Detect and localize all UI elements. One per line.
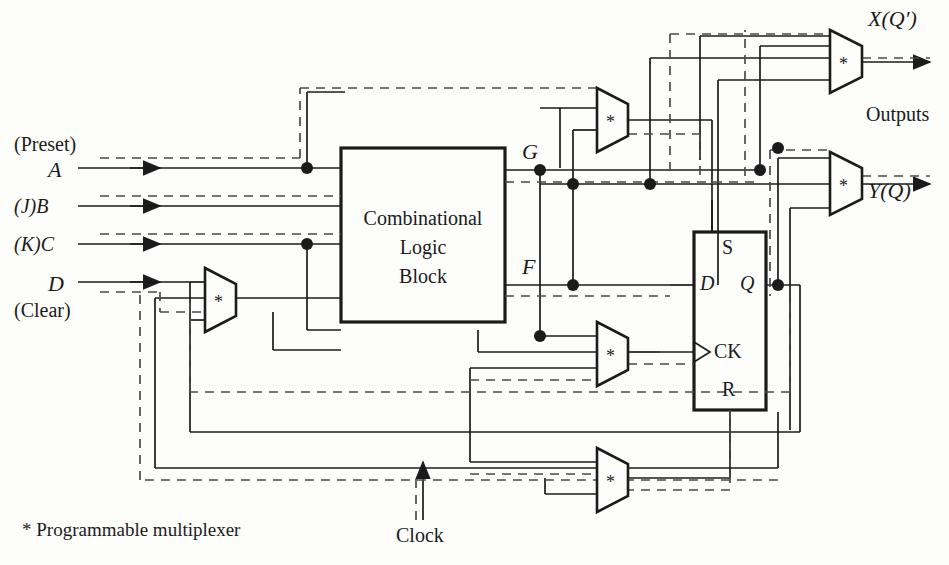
input-label-preset: (Preset) [14,133,76,156]
output-label-x: X(Q′) [868,6,917,32]
signal-label-g: G [522,139,538,165]
input-label-d: D [48,271,64,297]
logic-block-line3: Block [350,265,496,288]
ff-pin-ck: CK [714,340,742,363]
ff-pin-q: Q [740,272,754,295]
figure-canvas: (Preset) A (J)B (K)C D (Clear) Combinati… [0,0,949,565]
ff-pin-d: D [700,272,714,295]
input-label-a: A [48,157,61,183]
ff-pin-s: S [722,236,733,259]
mux-symbol-bottom: * [606,472,615,493]
output-label-y: Y(Q) [868,178,911,204]
dashed-control-wires [100,30,930,520]
mux-symbol-y-out: * [839,176,848,197]
outputs-group-label: Outputs [866,103,929,126]
logic-block-line2: Logic [350,236,496,259]
mux-symbol-clock: * [606,346,615,367]
signal-label-f: F [522,254,535,280]
input-label-clear: (Clear) [14,299,71,322]
mux-symbol-x-out: * [839,54,848,75]
input-label-kc: (K)C [14,233,54,256]
input-label-jb: (J)B [14,195,48,218]
footnote-programmable-multiplexer: * Programmable multiplexer [22,519,240,541]
logic-block-line1: Combinational [350,207,496,230]
mux-symbol-d-in: * [214,292,223,313]
mux-symbol-g-top: * [606,112,615,133]
ff-pin-r: R [722,378,735,401]
clock-label: Clock [396,524,444,547]
